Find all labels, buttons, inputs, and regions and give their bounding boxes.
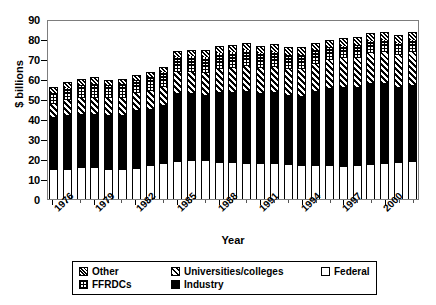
bar-segment-federal: [366, 164, 375, 199]
bar-segment-other: [366, 33, 375, 41]
bar-1996: [325, 40, 334, 199]
bar-segment-other: [325, 40, 334, 47]
bar-segment-universities-colleges: [49, 104, 58, 117]
bar-segment-federal: [339, 166, 348, 199]
bar-segment-universities-colleges: [104, 98, 113, 115]
bar-1984: [159, 67, 168, 199]
bar-1999: [366, 33, 375, 199]
bar-1992: [270, 44, 279, 199]
bar-segment-other: [90, 77, 99, 84]
bar-segment-other: [77, 79, 86, 86]
bar-segment-universities-colleges: [284, 69, 293, 95]
bar-segment-industry: [77, 114, 86, 168]
bar-segment-ffrdcs: [394, 43, 403, 55]
bar-1989: [228, 45, 237, 199]
bar-segment-universities-colleges: [311, 64, 320, 91]
y-tick-label: 50: [28, 94, 40, 106]
bar-segment-universities-colleges: [353, 58, 362, 87]
bar-segment-federal: [284, 164, 293, 199]
bar-segment-ffrdcs: [201, 57, 210, 73]
bar-segment-other: [353, 37, 362, 45]
bar-segment-ffrdcs: [132, 80, 141, 93]
bar-segment-universities-colleges: [380, 52, 389, 83]
bar-segment-universities-colleges: [242, 66, 251, 91]
bar-segment-industry: [90, 114, 99, 168]
bar-segment-universities-colleges: [77, 98, 86, 114]
bar-segment-ffrdcs: [242, 50, 251, 66]
bar-segment-ffrdcs: [270, 52, 279, 67]
bar-segment-ffrdcs: [215, 53, 224, 69]
bar-segment-ffrdcs: [228, 52, 237, 68]
bar-segment-industry: [201, 95, 210, 161]
x-tick-mark: [205, 200, 206, 203]
bar-segment-universities-colleges: [339, 58, 348, 86]
bar-segment-other: [284, 47, 293, 54]
y-tick-label: 10: [28, 174, 40, 186]
bar-1977: [63, 82, 72, 199]
legend-swatch-icon: [321, 267, 330, 276]
bar-segment-federal: [90, 167, 99, 199]
bar-segment-federal: [325, 165, 334, 199]
bar-segment-industry: [366, 83, 375, 164]
legend-swatch-icon: [79, 267, 88, 276]
bar-1988: [215, 46, 224, 199]
bar-1998: [353, 37, 362, 199]
legend-swatch-icon: [79, 280, 88, 289]
bar-1983: [146, 72, 155, 199]
x-tick-mark: [246, 200, 247, 203]
y-tick-label: 60: [28, 74, 40, 86]
bar-segment-universities-colleges: [408, 52, 417, 85]
bar-segment-ffrdcs: [339, 46, 348, 59]
legend-label: Federal: [334, 266, 370, 277]
bar-segment-other: [408, 32, 417, 40]
bar-segment-other: [228, 45, 237, 52]
y-tick-label: 0: [34, 194, 40, 206]
bar-1990: [242, 43, 251, 199]
bar-segment-universities-colleges: [132, 93, 141, 110]
x-tick-mark: [413, 200, 414, 203]
legend-row-2: FFRDCsIndustry: [79, 278, 370, 291]
bar-segment-industry: [63, 115, 72, 170]
bar-segment-ffrdcs: [63, 88, 72, 100]
bar-segment-industry: [408, 85, 417, 161]
bar-segment-industry: [325, 88, 334, 165]
y-tick-label: 80: [28, 34, 40, 46]
bar-segment-industry: [187, 93, 196, 159]
bar-1994: [297, 47, 306, 199]
bar-1995: [311, 43, 320, 199]
bar-segment-universities-colleges: [118, 98, 127, 115]
bar-segment-industry: [394, 87, 403, 162]
bar-segment-universities-colleges: [90, 98, 99, 114]
bar-2000: [380, 32, 389, 199]
bar-segment-ffrdcs: [187, 56, 196, 72]
bar-2002: [408, 32, 417, 199]
bar-segment-universities-colleges: [215, 69, 224, 92]
bar-segment-ffrdcs: [284, 55, 293, 70]
bar-segment-federal: [380, 163, 389, 199]
bar-segment-industry: [311, 91, 320, 165]
x-tick-mark: [121, 200, 122, 203]
y-tick-label: 90: [28, 14, 40, 26]
bar-segment-industry: [353, 87, 362, 165]
bar-segment-federal: [242, 163, 251, 199]
bar-1980: [104, 80, 113, 199]
bar-segment-federal: [201, 160, 210, 199]
bar-segment-federal: [215, 162, 224, 199]
bar-segment-universities-colleges: [201, 73, 210, 95]
bar-segment-industry: [284, 95, 293, 164]
bar-segment-universities-colleges: [256, 68, 265, 93]
bar-2001: [394, 35, 403, 199]
bar-segment-ffrdcs: [90, 84, 99, 97]
bar-segment-universities-colleges: [394, 55, 403, 87]
y-tick-label: 70: [28, 54, 40, 66]
bar-segment-universities-colleges: [228, 68, 237, 92]
bar-segment-ffrdcs: [146, 77, 155, 91]
bar-segment-universities-colleges: [187, 72, 196, 94]
bar-segment-federal: [408, 161, 417, 199]
bar-segment-industry: [173, 93, 182, 161]
bar-segment-ffrdcs: [311, 50, 320, 64]
legend-swatch-icon: [171, 267, 180, 276]
bar-segment-other: [380, 32, 389, 40]
bar-segment-industry: [256, 93, 265, 163]
bar-segment-universities-colleges: [173, 72, 182, 93]
